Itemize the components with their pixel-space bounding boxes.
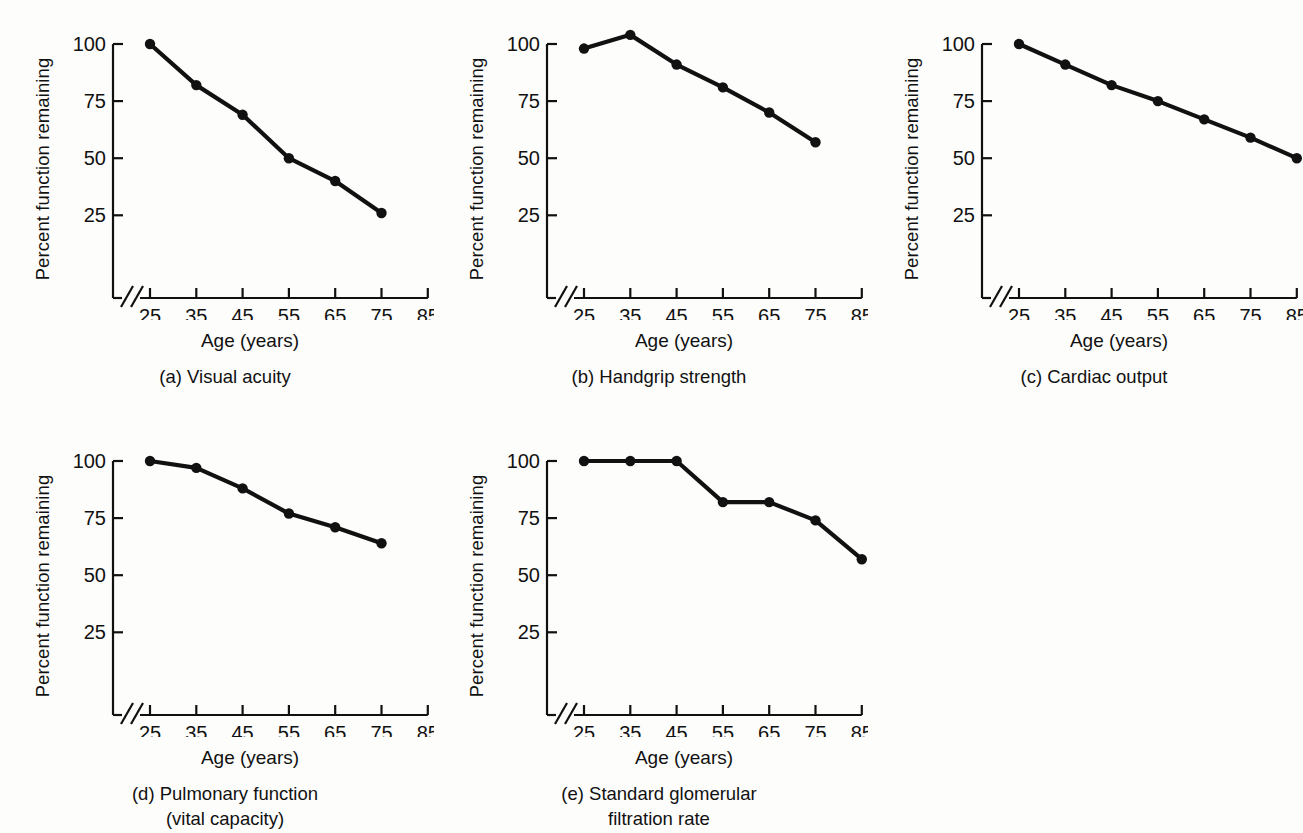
data-point-35[interactable] (1060, 59, 1070, 69)
data-point-75[interactable] (376, 538, 386, 548)
data-series-line (150, 461, 382, 543)
x-tick-label-55: 55 (1147, 305, 1169, 320)
chart-plot-e: 10075502525354555657585 (434, 417, 868, 737)
data-point-35[interactable] (191, 463, 201, 473)
data-point-55[interactable] (1153, 96, 1163, 106)
y-tick-label-50: 50 (518, 147, 540, 169)
x-tick-label-35: 35 (185, 722, 207, 737)
data-point-75[interactable] (810, 515, 820, 525)
axis-break-slash-2 (565, 286, 577, 307)
data-series-line (150, 44, 382, 213)
data-point-75[interactable] (376, 208, 386, 218)
data-point-55[interactable] (284, 153, 294, 163)
panel-caption-d-line2: (vital capacity) (10, 806, 440, 831)
data-point-65[interactable] (764, 107, 774, 117)
data-point-45[interactable] (671, 59, 681, 69)
axis-break-slash-1 (555, 286, 567, 307)
data-point-55[interactable] (718, 497, 728, 507)
x-tick-label-85: 85 (851, 305, 868, 320)
data-point-65[interactable] (330, 522, 340, 532)
data-series-line (584, 35, 816, 142)
x-tick-label-85: 85 (417, 722, 434, 737)
data-point-35[interactable] (625, 456, 635, 466)
y-axis-label-a: Percent function remaining (32, 34, 54, 304)
y-tick-label-25: 25 (84, 621, 106, 643)
x-tick-label-45: 45 (231, 722, 253, 737)
panel-caption-c: (c) Cardiac output (879, 364, 1303, 389)
panel-d: 10075502525354555657585 Percent function… (0, 417, 434, 833)
y-tick-label-75: 75 (953, 90, 975, 112)
data-point-45[interactable] (671, 456, 681, 466)
data-point-65[interactable] (330, 176, 340, 186)
y-tick-label-100: 100 (507, 33, 540, 55)
axis-break-slash-1 (555, 703, 567, 724)
x-tick-label-75: 75 (370, 305, 392, 320)
data-point-35[interactable] (191, 80, 201, 90)
axis-break-slash-1 (121, 286, 133, 307)
x-tick-label-85: 85 (417, 305, 434, 320)
data-point-25[interactable] (145, 456, 155, 466)
x-tick-label-55: 55 (712, 305, 734, 320)
chart-plot-d: 10075502525354555657585 (0, 417, 434, 737)
data-point-85[interactable] (1292, 153, 1302, 163)
x-tick-label-65: 65 (758, 305, 780, 320)
y-tick-label-75: 75 (518, 507, 540, 529)
y-tick-label-75: 75 (518, 90, 540, 112)
y-tick-label-100: 100 (73, 450, 106, 472)
panel-caption-b: (b) Handgrip strength (444, 364, 874, 389)
y-tick-label-75: 75 (84, 90, 106, 112)
data-point-25[interactable] (579, 456, 589, 466)
data-point-45[interactable] (237, 483, 247, 493)
x-tick-label-35: 35 (619, 305, 641, 320)
y-axis-label-b: Percent function remaining (466, 34, 488, 304)
data-point-65[interactable] (1199, 114, 1209, 124)
panel-e: 10075502525354555657585 Percent function… (434, 417, 868, 833)
data-point-45[interactable] (237, 110, 247, 120)
y-tick-label-50: 50 (518, 564, 540, 586)
data-point-55[interactable] (284, 508, 294, 518)
x-tick-label-45: 45 (665, 722, 687, 737)
x-axis-label-e: Age (years) (494, 747, 874, 769)
data-point-25[interactable] (579, 43, 589, 53)
data-point-75[interactable] (810, 137, 820, 147)
x-tick-label-85: 85 (851, 722, 868, 737)
x-tick-label-65: 65 (324, 305, 346, 320)
data-point-25[interactable] (145, 39, 155, 49)
x-tick-label-25: 25 (1008, 305, 1030, 320)
y-tick-label-25: 25 (953, 204, 975, 226)
y-axis-label-c: Percent function remaining (901, 34, 923, 304)
x-tick-label-35: 35 (185, 305, 207, 320)
x-tick-label-75: 75 (804, 305, 826, 320)
panel-a: 10075502525354555657585 Percent function… (0, 0, 434, 416)
x-tick-label-75: 75 (370, 722, 392, 737)
y-tick-label-25: 25 (518, 204, 540, 226)
x-tick-label-55: 55 (278, 722, 300, 737)
y-tick-label-25: 25 (84, 204, 106, 226)
data-point-35[interactable] (625, 30, 635, 40)
x-tick-label-65: 65 (324, 722, 346, 737)
panel-b: 10075502525354555657585 Percent function… (434, 0, 868, 416)
data-point-45[interactable] (1106, 80, 1116, 90)
x-tick-label-25: 25 (573, 722, 595, 737)
y-tick-label-50: 50 (84, 564, 106, 586)
x-axis-label-b: Age (years) (494, 330, 874, 352)
data-point-25[interactable] (1014, 39, 1024, 49)
panel-caption-e-line1: (e) Standard glomerular (561, 783, 756, 804)
chart-plot-c: 10075502525354555657585 (869, 0, 1303, 320)
y-tick-label-25: 25 (518, 621, 540, 643)
data-point-55[interactable] (718, 82, 728, 92)
y-tick-label-50: 50 (953, 147, 975, 169)
x-tick-label-75: 75 (1239, 305, 1261, 320)
data-point-65[interactable] (764, 497, 774, 507)
axis-break-slash-1 (121, 703, 133, 724)
x-axis-label-c: Age (years) (929, 330, 1303, 352)
y-tick-label-100: 100 (942, 33, 975, 55)
data-point-85[interactable] (857, 554, 867, 564)
x-axis-label-d: Age (years) (60, 747, 440, 769)
y-tick-label-75: 75 (84, 507, 106, 529)
axis-break-slash-2 (131, 286, 143, 307)
axis-break-slash-2 (131, 703, 143, 724)
axis-break-slash-1 (990, 286, 1002, 307)
data-point-75[interactable] (1245, 132, 1255, 142)
y-tick-label-100: 100 (73, 33, 106, 55)
